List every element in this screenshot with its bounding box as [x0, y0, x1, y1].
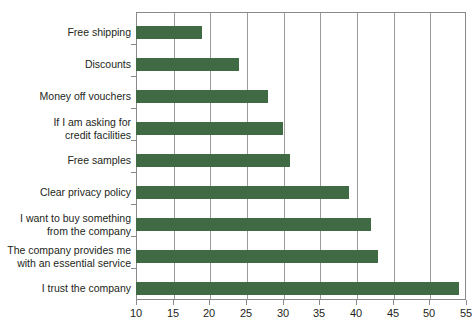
value-tick [356, 300, 357, 305]
value-tick [209, 300, 210, 305]
value-tick [136, 300, 137, 305]
bar [136, 58, 239, 71]
bar [136, 90, 268, 103]
bar [136, 250, 378, 263]
bar [136, 154, 290, 167]
value-tick-label: 25 [226, 307, 266, 320]
category-label: Clear privacy policy [0, 186, 131, 199]
category-label: Money off vouchers [0, 90, 131, 103]
value-tick-label: 50 [409, 307, 449, 320]
bar-series [136, 12, 466, 300]
value-tick-label: 10 [116, 307, 156, 320]
category-label: Free samples [0, 154, 131, 167]
value-tick-label: 35 [299, 307, 339, 320]
value-tick [393, 300, 394, 305]
bar [136, 122, 283, 135]
category-label: I want to buy something from the company [0, 212, 131, 237]
bar [136, 218, 371, 231]
category-axis-labels: Free shippingDiscountsMoney off vouchers… [0, 12, 131, 300]
value-tick [466, 300, 467, 305]
bar [136, 26, 202, 39]
value-tick-label: 15 [153, 307, 193, 320]
value-tick-label: 55 [446, 307, 473, 320]
bar [136, 282, 459, 295]
value-tick [173, 300, 174, 305]
category-label: The company provides me with an essentia… [0, 244, 131, 269]
value-tick-label: 40 [336, 307, 376, 320]
category-label: If I am asking for credit facilities [0, 116, 131, 141]
category-label: Free shipping [0, 26, 131, 39]
bar-chart: Free shippingDiscountsMoney off vouchers… [0, 0, 473, 324]
bar [136, 186, 349, 199]
category-label: Discounts [0, 58, 131, 71]
value-tick-label: 30 [263, 307, 303, 320]
value-tick-label: 45 [373, 307, 413, 320]
value-tick [429, 300, 430, 305]
value-tick-label: 20 [189, 307, 229, 320]
value-tick [246, 300, 247, 305]
value-tick [283, 300, 284, 305]
value-tick [319, 300, 320, 305]
category-label: I trust the company [0, 282, 131, 295]
